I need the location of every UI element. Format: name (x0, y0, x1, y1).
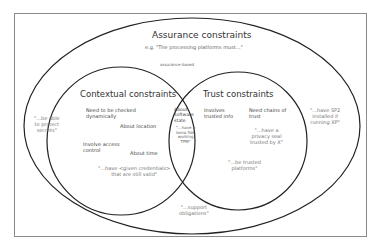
contextual-item-access-control: Involve access control (83, 142, 120, 154)
assurance-example: e.g. "The processing platforms must..." (145, 45, 243, 51)
trust-item-trusted-info: Involves trusted info (204, 108, 233, 120)
contextual-title: Contextual constraints (80, 90, 176, 100)
quote-bona-fide-tpm: "...have a bona fide working TPM" (176, 126, 195, 144)
assurance-title: Assurance constraints (152, 30, 252, 40)
quote-support-obligations: "...support obligations" (179, 205, 209, 217)
quote-privacy-seal: "...have a privacy seal trusted by X" (250, 128, 283, 145)
quote-given-credentials: "...have <given credentials> that are st… (98, 166, 170, 178)
contextual-item-location: About location (120, 124, 156, 130)
quote-trusted-platforms: "...be trusted platforms" (228, 160, 261, 172)
trust-title: Trust constraints (203, 90, 274, 100)
quote-sp2-installed: "...have SP2 installed if running XP" (310, 108, 340, 125)
intersection-software-state: About software state (174, 107, 194, 123)
quote-protect-secrets: "...be able to protect secrets" (34, 116, 60, 133)
contextual-item-checked-dynamically: Need to be checked dynamically (86, 108, 136, 120)
assurance-based-label: assurance-based (160, 63, 194, 68)
contextual-item-time: About time (130, 151, 158, 157)
trust-item-chains-of-trust: Need chains of trust (249, 108, 286, 120)
